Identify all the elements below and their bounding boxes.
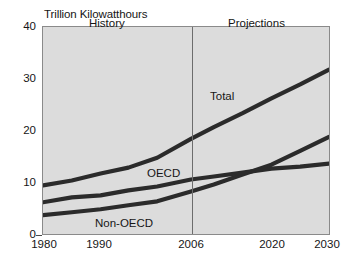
annotation-history: History bbox=[89, 17, 125, 29]
y-axis-tick-labels: 40 30 20 10 0 bbox=[10, 0, 36, 262]
plot-area bbox=[42, 26, 330, 235]
annotation-projections: Projections bbox=[228, 17, 285, 29]
series-label-total: Total bbox=[210, 90, 234, 102]
series-lines bbox=[43, 27, 329, 234]
x-axis-tick-2030: 2030 bbox=[314, 238, 340, 250]
x-axis-tick-labels: 1980 1990 2006 2020 2030 bbox=[0, 238, 350, 258]
line-oecd bbox=[43, 164, 329, 203]
history-projection-divider bbox=[192, 27, 193, 235]
y-axis-tick-10: 10 bbox=[10, 176, 36, 188]
y-tick-mark-0 bbox=[36, 235, 42, 236]
x-axis-tick-2020: 2020 bbox=[259, 238, 285, 250]
y-axis-tick-40: 40 bbox=[10, 20, 36, 32]
series-label-oecd: OECD bbox=[147, 167, 180, 179]
x-axis-tick-1980: 1980 bbox=[31, 238, 57, 250]
chart-figure: Trillion Kilowatthours 40 30 20 10 0 His… bbox=[0, 0, 350, 262]
x-axis-tick-2006: 2006 bbox=[178, 238, 204, 250]
x-axis-tick-1990: 1990 bbox=[86, 238, 112, 250]
y-axis-tick-20: 20 bbox=[10, 124, 36, 136]
series-label-non-oecd: Non-OECD bbox=[95, 217, 153, 229]
y-axis-tick-30: 30 bbox=[10, 72, 36, 84]
